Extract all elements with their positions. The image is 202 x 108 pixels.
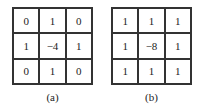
kernel-cell: 1: [39, 59, 65, 84]
caption-a: (a): [12, 91, 93, 103]
kernel-center-cell: −8: [138, 33, 164, 58]
kernel-cell: 1: [165, 33, 191, 58]
kernel-cell: 1: [112, 33, 138, 58]
laplacian-kernel-b: 1 1 1 1 −8 1 1 1 1: [111, 7, 192, 85]
kernel-cell: 0: [66, 59, 92, 84]
kernel-cell: 1: [112, 8, 138, 33]
kernel-cell: 0: [13, 59, 39, 84]
kernel-cell: 1: [66, 33, 92, 58]
kernel-cell: 1: [138, 59, 164, 84]
kernel-cell: 1: [165, 59, 191, 84]
kernel-center-cell: −4: [39, 33, 65, 58]
kernel-cell: 1: [39, 8, 65, 33]
caption-b: (b): [111, 91, 192, 103]
kernel-cell: 0: [13, 8, 39, 33]
laplacian-kernel-a: 0 1 0 1 −4 1 0 1 0: [12, 7, 93, 85]
kernel-cell: 1: [138, 8, 164, 33]
kernel-cell: 1: [13, 33, 39, 58]
kernel-cell: 0: [66, 8, 92, 33]
kernel-cell: 1: [112, 59, 138, 84]
kernel-cell: 1: [165, 8, 191, 33]
